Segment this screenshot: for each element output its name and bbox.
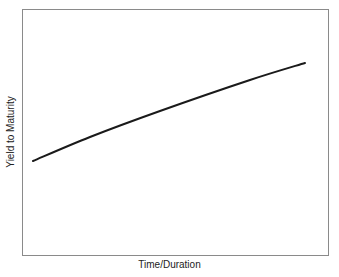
y-axis-label: Yield to Maturity: [5, 96, 16, 167]
yield-curve-line: [0, 0, 339, 277]
x-axis-label: Time/Duration: [0, 259, 339, 270]
